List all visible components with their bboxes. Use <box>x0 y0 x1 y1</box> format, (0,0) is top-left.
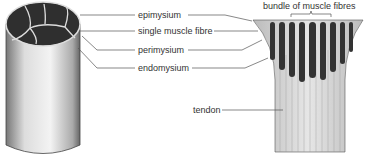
tendon-bundle <box>253 20 363 152</box>
label-bundle-of-muscle-fibres: bundle of muscle fibres <box>263 1 356 11</box>
muscle-diagram <box>0 0 373 159</box>
label-endomysium: endomysium <box>138 63 189 73</box>
label-single-muscle-fibre: single muscle fibre <box>138 26 213 36</box>
label-tendon: tendon <box>193 105 221 115</box>
label-perimysium: perimysium <box>138 45 184 55</box>
label-epimysium: epimysium <box>138 10 181 20</box>
bundle-bracket <box>291 11 331 17</box>
muscle-cylinder <box>6 2 80 154</box>
